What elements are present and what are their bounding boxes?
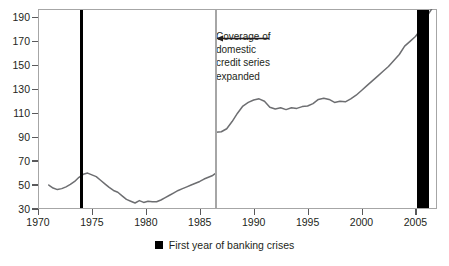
x-tick-label: 1995 xyxy=(296,217,319,228)
x-tick-mark xyxy=(308,209,309,215)
series-line xyxy=(49,173,216,203)
legend: First year of banking crises xyxy=(0,240,449,251)
x-tick-label: 1985 xyxy=(188,217,211,228)
legend-label-crisis: First year of banking crises xyxy=(169,240,294,251)
x-tick-mark xyxy=(415,209,416,215)
y-tick-label: 30 xyxy=(4,204,30,215)
y-tick-mark xyxy=(32,41,38,42)
y-tick-label: 150 xyxy=(4,60,30,71)
y-tick-mark xyxy=(32,17,38,18)
coverage-annotation-text: Coverage of domestic credit series expan… xyxy=(216,30,312,83)
y-tick-label: 130 xyxy=(4,84,30,95)
series-break-1986 xyxy=(215,10,217,208)
x-tick-label: 2005 xyxy=(404,217,427,228)
y-tick-mark xyxy=(32,113,38,114)
x-tick-label: 1970 xyxy=(26,217,49,228)
y-tick-mark xyxy=(32,137,38,138)
x-tick-label: 2000 xyxy=(350,217,373,228)
y-tick-label: 90 xyxy=(4,132,30,143)
legend-swatch-crisis xyxy=(155,241,163,249)
x-tick-mark xyxy=(254,209,255,215)
x-tick-label: 1980 xyxy=(134,217,157,228)
x-tick-mark xyxy=(38,209,39,215)
banking-crisis-1974 xyxy=(80,10,83,208)
y-tick-mark xyxy=(32,160,38,161)
y-tick-label: 170 xyxy=(4,36,30,47)
chart-figure: 30507090110130150170190 Coverage of dome… xyxy=(0,0,449,266)
y-tick-mark xyxy=(32,184,38,185)
x-tick-mark xyxy=(92,209,93,215)
y-tick-label: 70 xyxy=(4,156,30,167)
x-tick-label: 1990 xyxy=(242,217,265,228)
x-tick-mark xyxy=(146,209,147,215)
y-tick-label: 50 xyxy=(4,180,30,191)
y-tick-mark xyxy=(32,65,38,66)
banking-crisis-2005 xyxy=(417,10,429,208)
x-tick-mark xyxy=(200,209,201,215)
y-tick-mark xyxy=(32,89,38,90)
y-tick-label: 190 xyxy=(4,12,30,23)
coverage-annotation: Coverage of domestic credit series expan… xyxy=(216,30,312,83)
y-tick-label: 110 xyxy=(4,108,30,119)
x-tick-label: 1975 xyxy=(80,217,103,228)
x-tick-mark xyxy=(362,209,363,215)
